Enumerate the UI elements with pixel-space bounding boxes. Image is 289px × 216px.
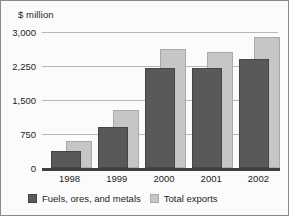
legend-swatch-total-exports (150, 194, 159, 203)
gridline (42, 32, 278, 33)
bar-fuels-ores-metals-2000 (145, 68, 175, 168)
chart-legend: Fuels, ores, and metals Total exports (28, 193, 218, 204)
y-axis-tick-label: 750 (1, 129, 36, 140)
bar-fuels-ores-metals-2001 (192, 68, 222, 168)
y-axis-unit-label: $ million (18, 9, 54, 20)
plot-area (42, 32, 278, 168)
legend-entry-fuels: Fuels, ores, and metals (28, 193, 141, 204)
y-axis-tick-label: 2,250 (1, 61, 36, 72)
x-axis-tick-label: 2002 (248, 173, 269, 184)
y-axis-tick-label: 1,500 (1, 95, 36, 106)
y-axis-tick-label: 0 (1, 163, 36, 174)
bar-fuels-ores-metals-1998 (51, 151, 81, 168)
legend-label-fuels: Fuels, ores, and metals (42, 193, 141, 204)
legend-label-total-exports: Total exports (164, 193, 218, 204)
legend-swatch-fuels (28, 194, 37, 203)
bar-fuels-ores-metals-1999 (98, 127, 128, 168)
bar-fuels-ores-metals-2002 (239, 59, 269, 168)
x-axis-baseline (42, 168, 280, 171)
x-axis-tick-label: 1999 (106, 173, 127, 184)
bar-chart-figure: $ million 07501,5002,2503,000 1998199920… (0, 0, 289, 216)
x-axis-tick-label: 1998 (59, 173, 80, 184)
x-axis-tick-label: 2001 (201, 173, 222, 184)
y-axis-tick-label: 3,000 (1, 27, 36, 38)
x-axis-tick-label: 2000 (153, 173, 174, 184)
legend-entry-total-exports: Total exports (150, 193, 218, 204)
